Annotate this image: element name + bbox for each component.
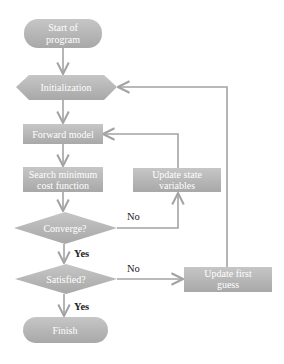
node-update-state-line2: variables — [159, 180, 195, 191]
node-update-state: Update state variables — [133, 168, 221, 192]
node-start: Start of program — [24, 19, 102, 48]
node-initialization: Initialization — [16, 75, 117, 100]
node-update-state-line1: Update state — [152, 169, 202, 180]
label-satisfied-yes: Yes — [74, 301, 89, 312]
node-converge-label: Converge? — [43, 223, 87, 234]
label-converge-yes: Yes — [74, 248, 89, 259]
node-initialization-label: Initialization — [40, 82, 91, 93]
node-satisfied-label: Satisfied? — [46, 274, 86, 285]
flowchart: Start of program Initialization Forward … — [0, 0, 284, 364]
node-satisfied: Satisfied? — [15, 264, 117, 294]
node-update-first-guess: Update first guess — [184, 267, 272, 292]
node-forward-model: Forward model — [23, 124, 103, 144]
edge-update-state-to-forward — [103, 134, 178, 168]
node-finish-label: Finish — [52, 325, 77, 336]
node-update-guess-line2: guess — [217, 279, 239, 290]
node-search-line2: cost function — [37, 180, 89, 191]
node-converge: Converge? — [14, 212, 117, 244]
node-start-line2: program — [46, 34, 80, 45]
node-finish: Finish — [23, 317, 108, 343]
node-start-line1: Start of — [48, 22, 78, 33]
label-converge-no: No — [127, 211, 140, 222]
node-search-line1: Search minimum — [29, 169, 98, 180]
node-update-guess-line1: Update first — [204, 268, 252, 279]
label-satisfied-no: No — [127, 263, 140, 274]
node-search-minimum: Search minimum cost function — [23, 167, 103, 192]
node-forward-model-label: Forward model — [32, 129, 94, 140]
